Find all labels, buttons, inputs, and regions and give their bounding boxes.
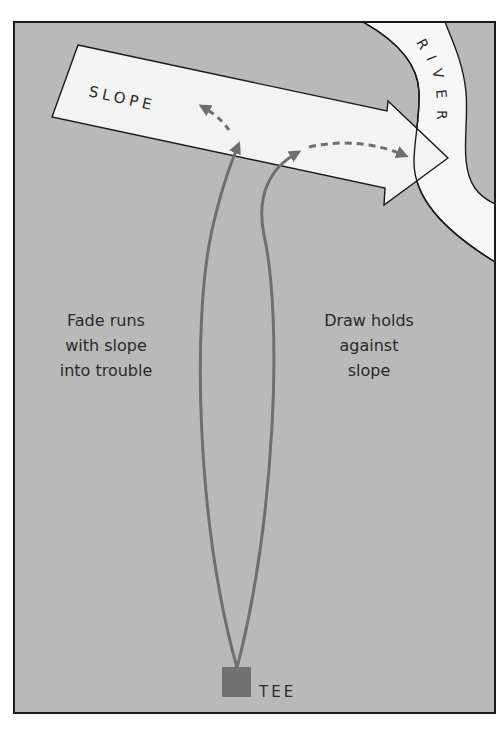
river-letter-e: E <box>433 89 450 99</box>
fade-annotation: Fade runs with slope into trouble <box>36 308 176 383</box>
draw-annotation-line-2: against <box>299 333 439 358</box>
draw-annotation-line-1: Draw holds <box>299 308 439 333</box>
fade-annotation-line-1: Fade runs <box>36 308 176 333</box>
draw-annotation: Draw holds against slope <box>299 308 439 383</box>
draw-annotation-line-3: slope <box>299 358 439 383</box>
fade-annotation-line-3: into trouble <box>36 358 176 383</box>
river-letter-r2: R <box>434 110 450 120</box>
tee-label: TEE <box>258 683 296 701</box>
fade-annotation-line-2: with slope <box>36 333 176 358</box>
tee-marker <box>222 667 251 697</box>
